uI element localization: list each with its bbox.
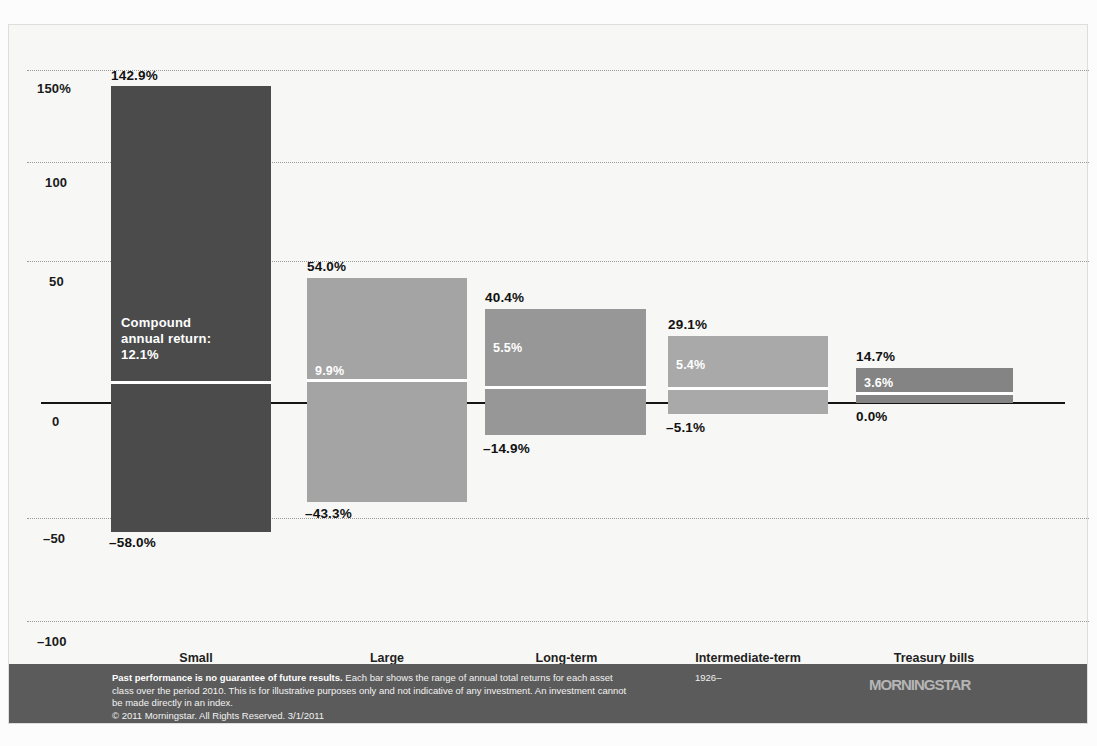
bar-value-low-large-stocks: –43.3%	[305, 506, 352, 521]
bar-value-compound-large-stocks: 9.9%	[315, 364, 344, 378]
bar-small-stocks[interactable]	[111, 86, 271, 532]
chart-frame: 150% 100 50 0 –50 –100 142.9% –58.0% Com…	[8, 24, 1088, 724]
bar-large-stocks[interactable]	[307, 278, 467, 502]
category-line-1: Intermediate-term	[695, 651, 801, 665]
morningstar-logo: MORNINGSTAR	[869, 676, 970, 693]
footer-period: 1926–	[695, 672, 721, 683]
bar-value-low-long-term-bonds: –14.9%	[483, 441, 530, 456]
bar-segment-lower	[111, 384, 271, 532]
category-label-treasury-bills: Treasury bills	[851, 634, 1017, 666]
compound-annual-return-annotation: Compound annual return: 12.1%	[121, 315, 211, 363]
bar-segment-lower	[856, 395, 1013, 403]
ytick-neg50: –50	[43, 531, 65, 546]
footer-disclaimer-band: Past performance is no guarantee of futu…	[9, 664, 1087, 723]
ytick-neg100: –100	[37, 634, 67, 649]
category-line-1: Large	[370, 651, 404, 665]
category-line-1: Small	[179, 651, 212, 665]
plot-area: 150% 100 50 0 –50 –100 142.9% –58.0% Com…	[19, 51, 1095, 651]
gridline-150	[27, 70, 1089, 71]
footer-bold-lead: Past performance is no guarantee of futu…	[112, 672, 343, 683]
ytick-150: 150%	[37, 81, 71, 96]
logo-text: MORNINGSTAR	[869, 676, 970, 693]
bar-value-high-treasury-bills: 14.7%	[856, 349, 895, 364]
bar-value-compound-treasury-bills: 3.6%	[864, 376, 893, 390]
bar-value-compound-long-term-bonds: 5.5%	[493, 341, 522, 355]
gridline-neg100	[27, 621, 1089, 622]
bar-value-high-intermediate-bonds: 29.1%	[668, 317, 707, 332]
bar-segment-lower	[485, 389, 646, 435]
chart-page: 150% 100 50 0 –50 –100 142.9% –58.0% Com…	[0, 0, 1097, 746]
ytick-100: 100	[45, 175, 67, 190]
bar-segment-lower	[668, 390, 828, 414]
bar-intermediate-term-government-bonds[interactable]	[668, 336, 828, 414]
category-line-1: Long-term	[536, 651, 598, 665]
bar-value-compound-intermediate-bonds: 5.4%	[676, 358, 705, 372]
bar-segment-lower	[307, 382, 467, 502]
bar-value-low-treasury-bills: 0.0%	[856, 409, 888, 424]
bar-value-low-intermediate-bonds: –5.1%	[666, 420, 705, 435]
footer-copyright: © 2011 Morningstar. All Rights Reserved.…	[112, 710, 324, 721]
footer-text: Past performance is no guarantee of futu…	[112, 672, 632, 722]
bar-value-high-long-term-bonds: 40.4%	[485, 290, 524, 305]
bar-value-low-small-stocks: –58.0%	[109, 535, 156, 550]
bar-value-high-large-stocks: 54.0%	[307, 259, 346, 274]
bar-long-term-government-bonds[interactable]	[485, 309, 646, 435]
bar-value-high-small-stocks: 142.9%	[111, 68, 158, 83]
category-line-1: Treasury bills	[894, 651, 975, 665]
ytick-50: 50	[49, 274, 64, 289]
ytick-0: 0	[52, 414, 59, 429]
